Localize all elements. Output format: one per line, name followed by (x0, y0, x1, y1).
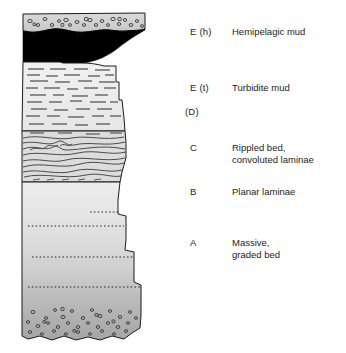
label-desc-c-line2: convoluted laminae (232, 154, 314, 166)
label-desc-a-line1: Massive, (232, 237, 280, 249)
label-code-e-h: E (h) (190, 26, 212, 37)
label-desc-e-t: Turbidite mud (232, 82, 290, 94)
label-code-c: C (190, 142, 197, 153)
label-code-d: (D) (185, 106, 199, 117)
label-desc-c: Rippled bed, convoluted laminae (232, 142, 314, 165)
label-desc-b-line1: Planar laminae (232, 186, 295, 198)
label-code-b: B (190, 186, 197, 197)
label-desc-e-t-line1: Turbidite mud (232, 82, 290, 94)
label-desc-e-h: Hemipelagic mud (232, 26, 305, 38)
label-code-a: A (190, 237, 197, 248)
label-desc-e-h-line1: Hemipelagic mud (232, 26, 305, 38)
label-desc-b: Planar laminae (232, 186, 295, 198)
label-code-e-t: E (t) (190, 82, 209, 93)
label-desc-c-line1: Rippled bed, (232, 142, 314, 154)
label-desc-a: Massive, graded bed (232, 237, 280, 260)
label-desc-a-line2: graded bed (232, 249, 280, 261)
division-label-column: E (h) Hemipelagic mud E (t) Turbidite mu… (0, 0, 346, 353)
